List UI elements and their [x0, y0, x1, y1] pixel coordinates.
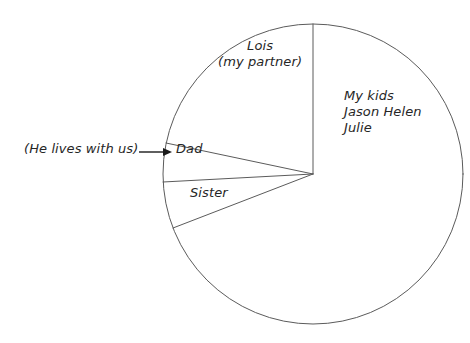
- slice-label-lois: Lois (my partner): [218, 38, 302, 70]
- slice-label-sister: Sister: [190, 185, 228, 201]
- slice-label-dad: Dad: [176, 141, 203, 157]
- pie-chart-figure: Lois (my partner) My kids Jason Helen Ju…: [0, 0, 470, 343]
- slice-divider-sister-mykids: [173, 174, 313, 228]
- slice-label-mykids-line3: Julie: [344, 120, 422, 136]
- slice-divider-dad-sister: [163, 174, 313, 182]
- slice-label-lois-line2: (my partner): [218, 54, 302, 70]
- slice-label-lois-line1: Lois: [247, 38, 273, 53]
- annotation-note-text: (He lives with us): [24, 141, 138, 157]
- right-arrow-icon: [163, 148, 172, 156]
- slice-label-mykids-line1: My kids: [344, 88, 422, 104]
- slice-label-mykids-line2: Jason Helen: [344, 104, 422, 120]
- slice-label-mykids: My kids Jason Helen Julie: [344, 88, 422, 136]
